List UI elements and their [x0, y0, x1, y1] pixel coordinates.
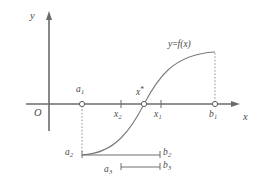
- point-label-a2: a2: [65, 148, 73, 158]
- point-label-x2: x2: [114, 110, 122, 120]
- point-label-x-star: x*: [136, 86, 144, 98]
- point-label-x1-sub: 1: [158, 113, 161, 120]
- point-label-x2-sub: 2: [118, 113, 121, 120]
- bracket-a3-b3: [121, 163, 160, 170]
- point-label-a3-sub: 3: [109, 168, 112, 175]
- bisection-method-figure: y x O a1 b1 x2 x1 x* a2 b2 a3 b3 y=f(x): [0, 0, 263, 188]
- origin-label: O: [34, 108, 42, 119]
- point-label-b2: b2: [163, 148, 171, 158]
- point-label-a1-sub: 1: [81, 88, 84, 95]
- point-label-x-star-sup: *: [140, 85, 144, 94]
- point-label-b2-sub: 2: [168, 151, 171, 158]
- marker-a1: [79, 101, 84, 106]
- plot-canvas: [0, 0, 263, 188]
- point-label-x1: x1: [154, 110, 162, 120]
- function-curve-label: y=f(x): [168, 40, 191, 50]
- bracket-a2-b2: [82, 151, 160, 158]
- x-axis-label: x: [243, 112, 248, 123]
- point-label-a3: a3: [104, 165, 112, 175]
- point-label-b1: b1: [209, 110, 217, 120]
- marker-xstar: [141, 101, 146, 106]
- y-axis-label: y: [30, 11, 35, 22]
- point-label-b3-sub: 3: [168, 164, 171, 171]
- point-label-b3: b3: [163, 161, 171, 171]
- point-label-b1-sub: 1: [214, 113, 217, 120]
- function-label-expr: f(x): [178, 39, 191, 49]
- x-axis: [26, 101, 240, 107]
- y-axis: [46, 11, 52, 131]
- point-label-a1: a1: [76, 85, 84, 95]
- marker-b1: [212, 101, 217, 106]
- point-label-a2-sub: 2: [70, 151, 73, 158]
